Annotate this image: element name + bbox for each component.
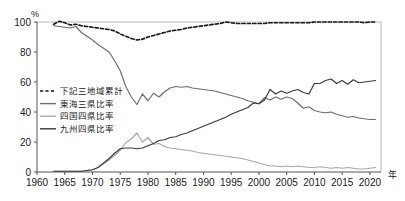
x-tick-label: 2020 — [359, 177, 382, 188]
x-tick-label: 2005 — [276, 177, 299, 188]
y-tick-label: 40 — [20, 107, 32, 118]
y-tick-label: 20 — [20, 137, 32, 148]
x-tick-label: 1975 — [109, 177, 132, 188]
y-tick-label: 100 — [14, 17, 31, 28]
x-axis-ticks: 1960196519701975198019851990199520002005… — [26, 172, 382, 188]
x-tick-label: 1980 — [137, 177, 160, 188]
y-tick-label: 60 — [20, 77, 32, 88]
x-tick-label: 1970 — [81, 177, 104, 188]
x-axis-unit-label: 年 — [388, 169, 397, 180]
plot-axes — [37, 22, 381, 172]
line-chart: 020406080100 196019651970197519801985199… — [0, 0, 405, 201]
series-line-0 — [54, 21, 376, 40]
x-tick-label: 1960 — [26, 177, 49, 188]
legend-label-2: 四国四県比率 — [60, 111, 114, 121]
x-tick-label: 1995 — [220, 177, 243, 188]
y-tick-label: 80 — [20, 47, 32, 58]
legend-label-3: 九州四県比率 — [60, 124, 114, 134]
y-axis-ticks: 020406080100 — [14, 17, 37, 178]
y-axis-unit-label: % — [31, 9, 39, 19]
x-tick-label: 2015 — [331, 177, 354, 188]
x-tick-label: 1965 — [54, 177, 77, 188]
chart-canvas: 020406080100 196019651970197519801985199… — [0, 0, 405, 201]
data-series-group — [54, 21, 376, 171]
x-tick-label: 2010 — [303, 177, 326, 188]
plot-frame — [37, 22, 381, 172]
y-tick-label: 0 — [25, 167, 31, 178]
legend-label-1: 東海三県比率 — [60, 99, 114, 109]
plot-frame-top-right — [37, 22, 381, 172]
x-tick-label: 1990 — [192, 177, 215, 188]
legend-label-0: 下記三地域累計 — [60, 86, 123, 96]
x-tick-label: 1985 — [165, 177, 188, 188]
series-line-2 — [54, 133, 376, 171]
x-tick-label: 2000 — [248, 177, 271, 188]
chart-legend: 下記三地域累計東海三県比率四国四県比率九州四県比率 — [40, 86, 123, 134]
